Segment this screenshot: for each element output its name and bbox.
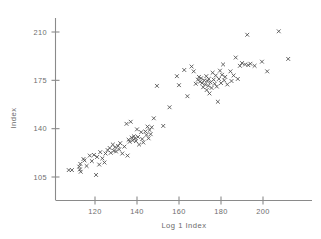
data-point-marker xyxy=(212,78,216,82)
data-point-marker xyxy=(246,63,250,67)
data-point-marker xyxy=(155,84,159,88)
data-point-marker xyxy=(137,143,141,147)
data-point-marker xyxy=(245,33,249,37)
data-point-marker xyxy=(168,105,172,109)
data-point-marker xyxy=(186,94,190,98)
data-point-marker xyxy=(88,154,92,158)
data-point-marker xyxy=(104,152,108,156)
data-point-marker xyxy=(152,116,156,120)
data-point-marker xyxy=(175,74,179,78)
y-tick-label: 175 xyxy=(34,76,47,85)
data-point-marker xyxy=(95,155,99,159)
data-point-marker xyxy=(85,164,89,168)
data-point-marker xyxy=(98,150,102,154)
data-point-marker xyxy=(149,132,153,136)
data-point-marker xyxy=(140,137,144,141)
data-point-marker xyxy=(236,77,240,81)
data-point-marker xyxy=(221,63,225,67)
data-point-marker xyxy=(108,146,112,150)
data-point-marker xyxy=(182,68,186,72)
data-point-marker xyxy=(192,69,196,73)
data-point-marker xyxy=(205,88,209,92)
data-point-marker xyxy=(194,82,198,86)
data-point-marker xyxy=(135,127,139,131)
data-point-marker xyxy=(222,78,226,82)
data-point-marker xyxy=(111,143,115,147)
x-axis-ticks: 120140160180200 xyxy=(88,197,269,217)
data-point-marker xyxy=(265,69,269,73)
data-point-marker xyxy=(90,159,94,163)
data-point-marker xyxy=(260,60,264,64)
data-point-marker xyxy=(286,57,290,61)
data-point-marker xyxy=(201,85,205,89)
data-point-marker xyxy=(230,79,234,83)
data-point-marker xyxy=(94,173,98,177)
data-point-marker xyxy=(109,151,113,155)
data-point-marker xyxy=(117,147,121,151)
data-point-marker xyxy=(83,159,87,163)
data-point-marker xyxy=(207,77,211,81)
data-point-marker xyxy=(92,153,96,157)
data-point-marker xyxy=(213,82,217,86)
data-point-marker xyxy=(125,122,129,126)
data-point-marker xyxy=(129,120,133,124)
data-point-marker xyxy=(218,69,222,73)
data-points-group xyxy=(67,29,290,176)
y-tick-label: 210 xyxy=(34,28,47,37)
data-point-marker xyxy=(210,86,214,90)
data-point-marker xyxy=(234,56,238,60)
data-point-marker xyxy=(146,125,150,129)
plot-canvas: 105140175210 120140160180200 Log 1 Index… xyxy=(0,0,321,239)
data-point-marker xyxy=(232,74,236,78)
data-point-marker xyxy=(238,64,242,68)
data-point-marker xyxy=(190,65,194,69)
data-point-marker xyxy=(225,83,229,87)
data-point-marker xyxy=(103,161,107,165)
data-point-marker xyxy=(223,75,227,79)
data-point-marker xyxy=(177,83,181,87)
data-point-marker xyxy=(277,29,281,33)
y-tick-label: 140 xyxy=(34,124,47,133)
data-point-marker xyxy=(145,133,149,137)
y-axis-title: Index xyxy=(9,107,18,128)
x-tick-label: 160 xyxy=(172,207,185,216)
data-point-marker xyxy=(229,69,233,73)
data-point-marker xyxy=(150,125,154,129)
y-tick-label: 105 xyxy=(34,173,47,182)
x-tick-label: 200 xyxy=(256,207,269,216)
data-point-marker xyxy=(147,136,151,140)
data-point-marker xyxy=(123,145,127,149)
data-point-marker xyxy=(100,156,104,160)
data-point-marker xyxy=(198,80,202,84)
x-axis-title: Log 1 Index xyxy=(161,221,206,230)
data-point-marker xyxy=(144,130,148,134)
data-point-marker xyxy=(215,85,219,89)
data-point-marker xyxy=(126,154,130,158)
data-point-marker xyxy=(220,73,224,77)
data-point-marker xyxy=(214,74,218,78)
data-point-marker xyxy=(70,168,74,172)
data-point-marker xyxy=(118,141,122,145)
data-point-marker xyxy=(161,124,165,128)
x-tick-label: 180 xyxy=(214,207,227,216)
data-point-marker xyxy=(97,163,101,167)
data-point-marker xyxy=(208,92,212,96)
x-tick-label: 140 xyxy=(130,207,143,216)
data-point-marker xyxy=(120,152,124,156)
data-point-marker xyxy=(148,128,152,132)
data-point-marker xyxy=(139,130,143,134)
data-point-marker xyxy=(141,141,145,145)
axes-group xyxy=(56,18,313,201)
x-tick-label: 120 xyxy=(88,207,101,216)
data-point-marker xyxy=(217,77,221,81)
data-point-marker xyxy=(216,100,220,104)
data-point-marker xyxy=(202,78,206,82)
data-point-marker xyxy=(249,62,253,66)
data-point-marker xyxy=(253,64,257,68)
scatter-plot-figure: 105140175210 120140160180200 Log 1 Index… xyxy=(0,0,321,239)
